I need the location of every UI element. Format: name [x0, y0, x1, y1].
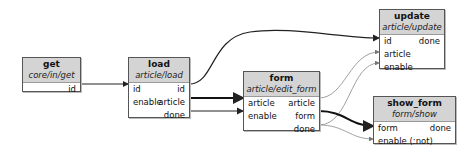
port-out-article[interactable]: article — [158, 96, 185, 109]
node-header: load article/load — [129, 58, 189, 83]
node-header: get core/in/get — [23, 58, 80, 83]
port-out-done[interactable]: done — [419, 35, 440, 48]
port-in-enable[interactable]: enable — [248, 110, 277, 123]
node-name: get — [25, 59, 78, 70]
node-name: update — [382, 11, 442, 22]
port-in-form[interactable]: form — [378, 122, 398, 135]
node-get[interactable]: get core/in/get id — [22, 57, 81, 92]
port-in-article[interactable]: article — [384, 48, 411, 61]
node-name: form — [246, 73, 317, 84]
node-header: update article/update — [380, 10, 444, 35]
node-header: form article/edit_form — [244, 72, 319, 97]
port-in-enable-not[interactable]: enable (:not) — [378, 135, 433, 148]
node-form[interactable]: form article/edit_form article article e… — [243, 71, 320, 131]
edge-form-article-to-update-article — [319, 52, 379, 98]
node-type: form/show — [376, 109, 453, 119]
port-in-id[interactable]: id — [384, 35, 392, 48]
port-out-article[interactable]: article — [288, 97, 315, 110]
node-type: core/in/get — [25, 70, 78, 80]
port-in-id[interactable]: id — [133, 83, 141, 96]
port-in-article[interactable]: article — [248, 97, 275, 110]
port-out-id[interactable]: id — [177, 83, 185, 96]
node-show-form[interactable]: show_form form/show form done enable (:n… — [373, 96, 456, 144]
node-header: show_form form/show — [374, 97, 455, 122]
node-load[interactable]: load article/load id id enable article d… — [128, 57, 190, 118]
node-type: article/update — [382, 22, 442, 32]
port-out-done[interactable]: done — [430, 122, 451, 135]
port-in-enable[interactable]: enable — [384, 61, 413, 74]
edge-form-done-to-showform-enable — [319, 125, 373, 139]
node-type: article/edit_form — [246, 84, 317, 94]
node-update[interactable]: update article/update id done article en… — [379, 9, 445, 69]
node-name: load — [131, 59, 187, 70]
node-type: article/load — [131, 70, 187, 80]
node-name: show_form — [376, 98, 453, 109]
port-out-form[interactable]: form — [295, 110, 315, 123]
port-out-id[interactable]: id — [68, 83, 76, 96]
edge-form-done-to-update-enable — [319, 63, 379, 125]
port-out-done[interactable]: done — [164, 109, 185, 122]
port-out-done[interactable]: done — [294, 123, 315, 136]
